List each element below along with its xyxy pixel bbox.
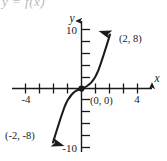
cubic-function-plot: y x -4 4 10 -10 (2, 8) (0, 0) (-2, -8) xyxy=(0,0,167,161)
origin-point-dot xyxy=(78,85,84,91)
graph-screenshot: y = f(x) xyxy=(0,0,167,161)
y-tick-label-negative-ten: -10 xyxy=(62,142,77,154)
annotation-point-2-8: (2, 8) xyxy=(119,33,142,45)
x-tick-label-negative-four: -4 xyxy=(21,93,31,105)
x-axis-label: x xyxy=(153,72,160,84)
x-tick-label-four: 4 xyxy=(134,93,140,105)
y-tick-label-ten: 10 xyxy=(66,24,78,36)
annotation-point-neg2-neg8: (-2, -8) xyxy=(5,130,35,142)
annotation-point-0-0: (0, 0) xyxy=(90,95,113,107)
